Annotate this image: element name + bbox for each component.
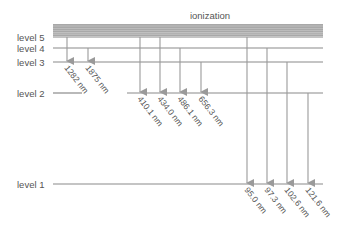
- level-label: level 5: [17, 32, 44, 43]
- hydrogen-energy-level-diagram: ionization level 5level 4level 3level 2l…: [0, 0, 339, 239]
- transition-arrows: 1282 nm1875 nm410.1 nm434.0 nm486.1 nm65…: [62, 37, 333, 219]
- level-label: level 1: [17, 179, 44, 190]
- level-label: level 4: [17, 43, 44, 54]
- level-label: level 3: [17, 57, 44, 68]
- ionization-band: [53, 24, 323, 36]
- level-label: level 2: [17, 88, 44, 99]
- ionization-label: ionization: [190, 10, 230, 21]
